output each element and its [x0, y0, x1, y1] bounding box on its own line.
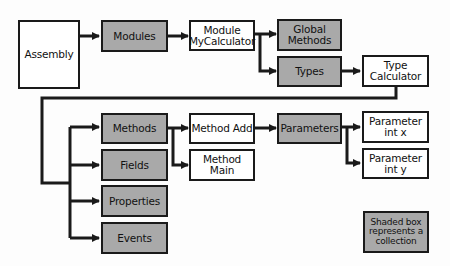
node-assembly: Assembly [18, 20, 80, 89]
node-types: Types [277, 56, 342, 87]
node-modules: Modules [101, 20, 168, 52]
node-label: Events [117, 233, 151, 244]
node-label: Method Add [191, 123, 252, 134]
node-method-add: Method Add [189, 113, 255, 144]
node-methods: Methods [101, 113, 168, 144]
node-parameters: Parameters [277, 113, 342, 144]
node-label: Modules [113, 31, 155, 42]
node-label: Properties [109, 196, 160, 207]
node-parameter-int-x: Parameter int x [362, 111, 429, 143]
node-label: Type Calculator [370, 60, 421, 82]
node-parameter-int-y: Parameter int y [362, 148, 429, 179]
node-fields: Fields [101, 149, 168, 181]
node-global-methods: Global Methods [277, 19, 342, 51]
node-label: Global Methods [288, 24, 331, 46]
node-module-mycalculator: Module MyCalculator [189, 20, 255, 51]
node-label: Methods [113, 123, 156, 134]
node-label: Assembly [24, 49, 73, 60]
node-events: Events [101, 222, 168, 254]
node-properties: Properties [101, 185, 168, 217]
legend-label: Shaded box represents a collection [369, 218, 423, 247]
node-label: Parameters [280, 123, 338, 134]
node-label: Fields [120, 160, 149, 171]
legend-shaded-box: Shaded box represents a collection [363, 211, 429, 253]
node-label: Types [295, 66, 324, 77]
node-label: Parameter int x [369, 116, 422, 138]
node-label: Module MyCalculator [189, 25, 255, 47]
node-type-calculator: Type Calculator [362, 55, 429, 87]
node-method-main: Method Main [189, 149, 255, 181]
node-label: Method Main [203, 154, 241, 176]
node-label: Parameter int y [369, 153, 422, 175]
